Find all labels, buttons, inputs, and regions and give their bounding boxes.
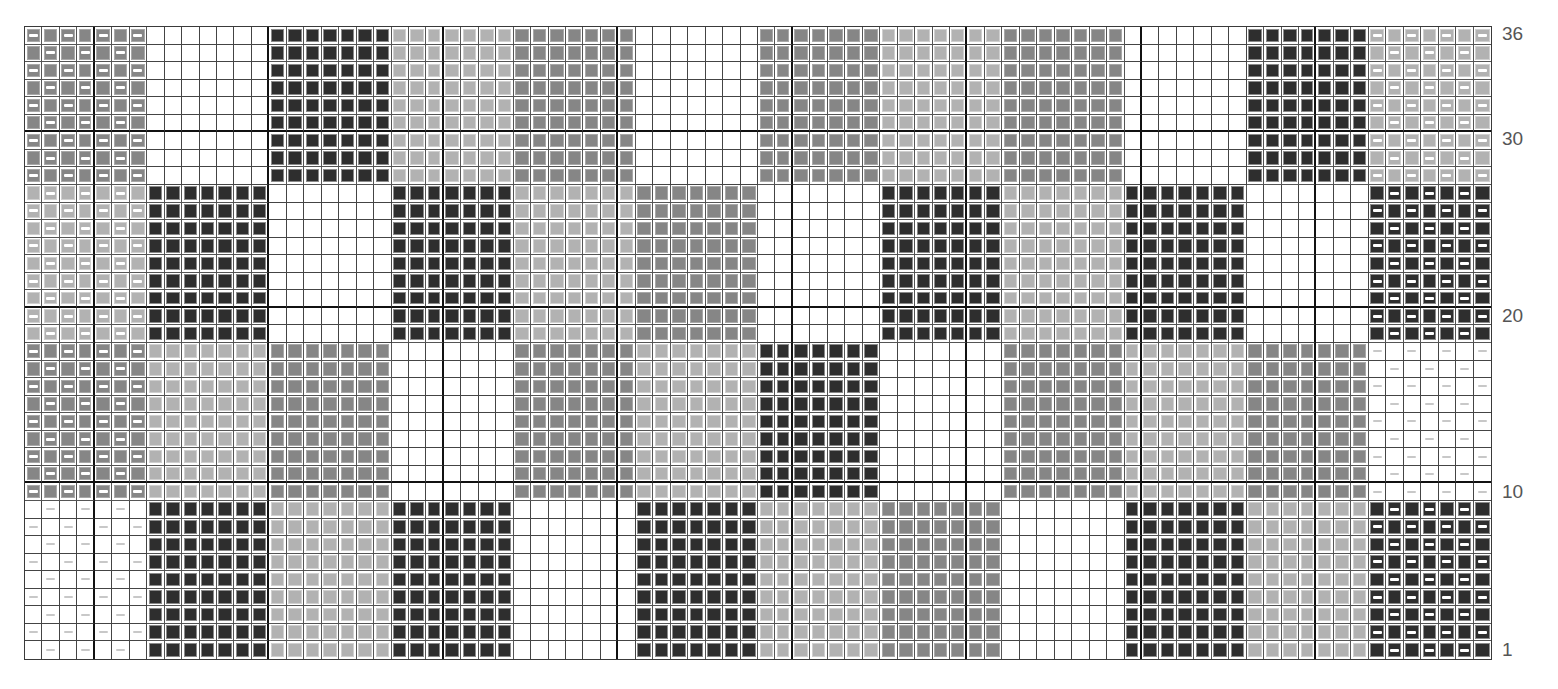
stitch-cell — [688, 150, 705, 168]
stitch-cell — [1194, 255, 1211, 273]
stitch-cell — [392, 290, 409, 308]
stitch-cell — [671, 501, 688, 519]
stitch-cell — [304, 255, 321, 273]
purl-dash-icon — [1425, 262, 1434, 265]
stitch-cell — [898, 431, 915, 449]
stitch-cell — [775, 466, 792, 484]
stitch-cell — [287, 606, 304, 624]
stitch-cell — [933, 448, 950, 466]
stitch-cell — [1090, 536, 1107, 554]
purl-dash-icon — [1390, 403, 1399, 405]
stitch-cell — [444, 97, 461, 115]
stitch-cell — [549, 290, 566, 308]
stitch-cell — [1386, 167, 1403, 185]
stitch-cell — [915, 255, 932, 273]
stitch-cell — [165, 483, 182, 501]
stitch-cell — [217, 413, 234, 431]
stitch-cell — [1020, 378, 1037, 396]
stitch-cell — [950, 255, 967, 273]
purl-dash-icon — [1442, 280, 1451, 283]
stitch-cell — [25, 325, 42, 343]
stitch-cell — [688, 378, 705, 396]
purl-dash-icon — [1373, 69, 1382, 72]
stitch-cell — [845, 115, 862, 133]
stitch-cell — [1299, 167, 1316, 185]
stitch-cell — [514, 571, 531, 589]
stitch-cell — [915, 624, 932, 642]
stitch-cell — [583, 97, 600, 115]
stitch-cell — [1037, 185, 1054, 203]
stitch-cell — [1351, 413, 1368, 431]
stitch-cell — [234, 589, 251, 607]
stitch-cell — [741, 62, 758, 80]
stitch-cell — [1142, 431, 1159, 449]
stitch-cell — [496, 606, 513, 624]
stitch-cell — [618, 431, 635, 449]
stitch-cell — [217, 150, 234, 168]
stitch-cell — [1282, 132, 1299, 150]
stitch-cell — [723, 132, 740, 150]
stitch-cell — [1404, 554, 1421, 572]
stitch-cell — [1194, 273, 1211, 291]
stitch-cell — [601, 45, 618, 63]
stitch-cell — [967, 483, 984, 501]
stitch-cell — [374, 185, 391, 203]
stitch-cell — [793, 45, 810, 63]
stitch-cell — [583, 554, 600, 572]
stitch-cell — [601, 27, 618, 45]
stitch-cell — [322, 220, 339, 238]
stitch-cell — [269, 536, 286, 554]
stitch-cell — [898, 45, 915, 63]
stitch-cell — [182, 501, 199, 519]
stitch-cell — [828, 448, 845, 466]
stitch-cell — [566, 589, 583, 607]
stitch-cell — [252, 501, 269, 519]
stitch-cell — [1107, 431, 1124, 449]
purl-dash-icon — [1442, 350, 1451, 352]
stitch-cell — [671, 290, 688, 308]
stitch-cell — [461, 431, 478, 449]
stitch-cell — [374, 150, 391, 168]
stitch-cell — [583, 361, 600, 379]
stitch-cell — [531, 97, 548, 115]
stitch-cell — [898, 115, 915, 133]
stitch-cell — [793, 97, 810, 115]
stitch-cell — [392, 606, 409, 624]
stitch-cell — [566, 308, 583, 326]
stitch-cell — [1002, 466, 1019, 484]
stitch-cell — [252, 80, 269, 98]
stitch-cell — [985, 483, 1002, 501]
stitch-cell — [1456, 132, 1473, 150]
stitch-cell — [1090, 325, 1107, 343]
stitch-cell — [200, 167, 217, 185]
stitch-cell — [25, 606, 42, 624]
stitch-cell — [898, 150, 915, 168]
stitch-cell — [583, 290, 600, 308]
stitch-cell — [130, 571, 147, 589]
stitch-cell — [1212, 167, 1229, 185]
stitch-cell — [1090, 378, 1107, 396]
purl-dash-icon — [1425, 473, 1434, 475]
stitch-cell — [706, 624, 723, 642]
stitch-cell — [828, 589, 845, 607]
stitch-cell — [130, 185, 147, 203]
stitch-cell — [1404, 238, 1421, 256]
stitch-cell — [828, 571, 845, 589]
stitch-cell — [1351, 220, 1368, 238]
stitch-cell — [339, 62, 356, 80]
stitch-cell — [653, 62, 670, 80]
stitch-cell — [1386, 150, 1403, 168]
stitch-cell — [339, 519, 356, 537]
stitch-cell — [374, 290, 391, 308]
stitch-cell — [287, 466, 304, 484]
stitch-cell — [1282, 519, 1299, 537]
stitch-cell — [775, 413, 792, 431]
stitch-cell — [1055, 290, 1072, 308]
stitch-cell — [1107, 97, 1124, 115]
stitch-cell — [845, 150, 862, 168]
purl-dash-icon — [1460, 613, 1469, 616]
stitch-cell — [845, 203, 862, 221]
stitch-cell — [531, 413, 548, 431]
stitch-cell — [758, 290, 775, 308]
stitch-cell — [706, 378, 723, 396]
